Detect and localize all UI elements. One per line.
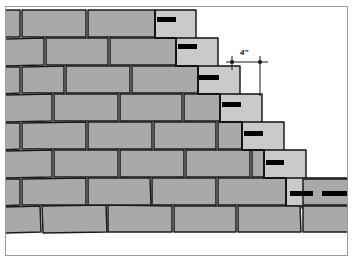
reinforcement-bar xyxy=(322,191,348,196)
block xyxy=(22,178,86,205)
block xyxy=(252,150,264,177)
block xyxy=(238,206,301,232)
block xyxy=(4,123,20,150)
dimension-endpoint-right-dot xyxy=(258,60,262,64)
block xyxy=(108,205,172,232)
light-block-step-1 xyxy=(155,10,196,40)
reinforcement-bar xyxy=(244,131,263,136)
light-block-step-2 xyxy=(176,38,218,68)
block xyxy=(120,94,182,121)
block xyxy=(4,67,20,94)
block xyxy=(4,94,52,122)
figure-container: 4" xyxy=(0,0,356,264)
block xyxy=(66,66,130,93)
reinforcement-bar xyxy=(266,160,284,165)
reinforcement-bar xyxy=(222,102,241,107)
block xyxy=(88,178,151,205)
course-1 xyxy=(4,38,176,66)
dimension-label-4in: 4" xyxy=(240,49,248,57)
dimension-endpoint-left-dot xyxy=(230,60,234,64)
masonry-wall-illustration xyxy=(0,0,356,264)
block xyxy=(4,179,20,206)
block xyxy=(22,66,64,93)
block xyxy=(88,122,152,149)
block xyxy=(152,178,216,205)
light-block-step-5 xyxy=(242,122,284,152)
block xyxy=(54,150,118,177)
block xyxy=(132,66,198,93)
block xyxy=(22,122,86,149)
block xyxy=(4,150,52,178)
block xyxy=(120,150,184,177)
block xyxy=(110,38,176,65)
reinforcement-bar xyxy=(157,17,176,22)
course-3 xyxy=(4,94,220,122)
block xyxy=(42,205,107,233)
block xyxy=(88,10,155,37)
light-block-step-3 xyxy=(198,66,240,96)
course-5 xyxy=(4,150,264,178)
block xyxy=(218,178,286,205)
block xyxy=(4,206,41,233)
block xyxy=(4,10,20,37)
reinforcement-bar xyxy=(178,44,197,49)
light-block-step-4 xyxy=(220,94,262,124)
course-4 xyxy=(4,122,242,150)
block xyxy=(4,38,44,66)
course-top xyxy=(4,10,155,37)
block xyxy=(174,206,236,232)
block xyxy=(22,10,86,37)
course-2 xyxy=(4,66,198,94)
course-bottom xyxy=(4,205,349,233)
block xyxy=(186,150,250,177)
block xyxy=(54,94,118,121)
block xyxy=(154,122,216,149)
block xyxy=(218,122,242,149)
block xyxy=(184,94,220,121)
reinforcement-bar xyxy=(199,75,219,80)
block xyxy=(303,206,349,232)
block xyxy=(46,38,108,65)
reinforcement-bar xyxy=(290,191,313,196)
